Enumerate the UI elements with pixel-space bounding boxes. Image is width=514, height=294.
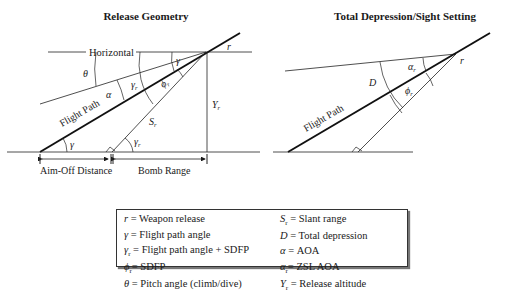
gamma-bottom-label: γ — [70, 139, 75, 150]
legend-item: γr = Flight path angle + SDFP — [124, 244, 249, 261]
aim-off-distance-label: Aim-Off Distance — [40, 165, 113, 176]
phi-r-arc — [426, 73, 433, 86]
theta-label: θ — [83, 68, 88, 79]
legend-item: γ = Flight path angle — [124, 229, 249, 245]
alpha-r-arc — [423, 58, 426, 71]
gamma-r-bottom-arc — [125, 138, 133, 152]
legend-item: θ = Pitch angle (climb/dive) — [124, 278, 249, 294]
symbol-legend: r = Weapon release γ = Flight path angle… — [116, 209, 408, 267]
d-label: D — [368, 77, 377, 88]
flight-path-line — [40, 33, 240, 152]
right-diagram: r αr D ϕr Flight Path — [257, 33, 490, 152]
phi-r-arc — [177, 69, 183, 77]
right-angle-mark — [106, 147, 115, 152]
s-r-label: Sr — [149, 116, 157, 128]
alpha-arc — [117, 80, 124, 100]
legend-right-column: Sr = Slant range D = Total depression α … — [280, 213, 368, 294]
release-point-label: r — [227, 41, 231, 52]
bomb-range-label: Bomb Range — [138, 165, 191, 176]
legend-item: Sr = Slant range — [280, 213, 368, 230]
legend-left-column: r = Weapon release γ = Flight path angle… — [124, 213, 249, 293]
gamma-r-bottom-label: γr — [134, 136, 141, 148]
d-arc — [380, 62, 403, 108]
legend-item: r = Weapon release — [124, 213, 249, 229]
gamma-r-arc — [139, 52, 153, 104]
phi-r-label: ϕr — [405, 85, 413, 97]
y-r-label: Yr — [212, 99, 221, 111]
legend-item: Yr = Release altitude — [280, 278, 368, 294]
release-point-label: r — [460, 55, 464, 66]
flight-path-label: Flight Path — [302, 102, 346, 134]
flight-path-label: Flight Path — [58, 97, 102, 129]
flight-path-line — [288, 33, 490, 152]
legend-item: ϕr= SDFP — [124, 261, 249, 278]
horizontal-label: Horizontal — [89, 47, 134, 58]
legend-item: D = Total depression — [280, 230, 368, 246]
alpha-label: α — [106, 89, 112, 100]
gamma-label: γ — [176, 55, 181, 66]
gamma-r-label: γr — [131, 79, 138, 91]
alpha-r-label: αr — [408, 61, 416, 73]
left-diagram: Horizontal r θ α γr γ ϕr Yr Sr Flight Pa… — [7, 33, 257, 176]
legend-item: α = AOA — [280, 245, 368, 261]
gamma-arc — [171, 52, 174, 71]
gamma-bottom-arc — [63, 138, 67, 152]
legend-item: αr= ZSL AOA — [280, 261, 368, 278]
